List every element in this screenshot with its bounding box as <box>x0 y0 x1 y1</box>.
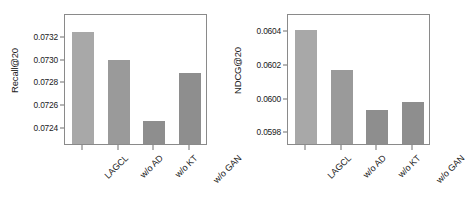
y-tick-label-ndcg: 0.0598 <box>257 127 281 137</box>
x-tick-label-recall-1: w/o AD <box>138 153 165 180</box>
bar-ndcg-3 <box>402 102 424 144</box>
x-tick-label-ndcg-2: w/o KT <box>396 153 422 179</box>
bar-recall-3 <box>179 73 201 144</box>
y-axis-tick-labels-recall: 0.07240.07260.07280.07300.0732 <box>18 14 64 145</box>
x-tick-mark-recall <box>117 145 118 150</box>
bar-group-recall <box>65 15 206 144</box>
x-axis-ticks-recall <box>64 145 207 150</box>
y-tick-label-recall: 0.0724 <box>34 123 58 133</box>
x-tick-label-recall-2: w/o KT <box>173 153 199 179</box>
x-tick-mark-recall <box>189 145 190 150</box>
x-tick-mark-ndcg <box>340 145 341 150</box>
x-axis-tick-labels-ndcg: LAGCLw/o ADw/o KTw/o GAN <box>287 153 430 203</box>
x-tick-label-recall-0: LAGCL <box>102 153 130 181</box>
bar-ndcg-2 <box>366 110 388 144</box>
x-tick-mark-ndcg <box>304 145 305 150</box>
y-tick-label-ndcg: 0.0602 <box>257 60 281 70</box>
x-tick-mark-ndcg <box>412 145 413 150</box>
y-tick-label-recall: 0.0732 <box>34 32 58 42</box>
y-tick-label-ndcg: 0.0604 <box>257 26 281 36</box>
x-axis-ticks-ndcg <box>287 145 430 150</box>
bar-group-ndcg <box>288 15 429 144</box>
bar-ndcg-1 <box>331 70 353 144</box>
chart-panel-recall: Recall@20 0.07240.07260.07280.07300.0732… <box>0 0 223 199</box>
x-tick-mark-ndcg <box>376 145 377 150</box>
bar-recall-2 <box>143 121 165 144</box>
bar-recall-0 <box>72 32 94 144</box>
y-tick-label-recall: 0.0726 <box>34 100 58 110</box>
y-tick-label-recall: 0.0730 <box>34 55 58 65</box>
x-tick-label-ndcg-1: w/o AD <box>361 153 388 180</box>
y-tick-label-recall: 0.0728 <box>34 77 58 87</box>
bar-ndcg-0 <box>295 30 317 144</box>
x-axis-tick-labels-recall: LAGCLw/o ADw/o KTw/o GAN <box>64 153 207 203</box>
plot-area-ndcg <box>287 14 430 145</box>
bar-recall-1 <box>108 60 130 144</box>
x-tick-mark-recall <box>153 145 154 150</box>
y-tick-label-ndcg: 0.0600 <box>257 94 281 104</box>
plot-area-recall <box>64 14 207 145</box>
x-tick-label-ndcg-3: w/o GAN <box>434 153 466 185</box>
x-tick-mark-recall <box>81 145 82 150</box>
chart-panel-ndcg: NDCG@20 0.05980.06000.06020.0604 LAGCLw/… <box>223 0 446 199</box>
x-tick-label-ndcg-0: LAGCL <box>325 153 353 181</box>
y-axis-tick-labels-ndcg: 0.05980.06000.06020.0604 <box>241 14 287 145</box>
